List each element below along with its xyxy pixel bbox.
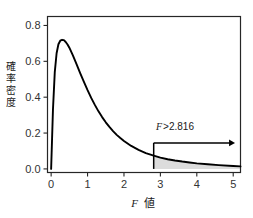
- chart-figure: F>2.816 F値 確率密度 0.00.20.40.60.8 012345: [0, 0, 253, 218]
- y-tick-label: 0.2: [25, 127, 40, 139]
- x-tick-label: 5: [230, 178, 236, 190]
- y-tick-label: 0.0: [25, 163, 40, 175]
- y-axis-title-char: 密: [6, 84, 16, 96]
- x-tick-label: 0: [48, 178, 54, 190]
- annotation-italic-f: F: [155, 121, 163, 132]
- y-tick-label: 0.6: [25, 55, 40, 67]
- critical-value-annotation: F>2.816: [155, 121, 194, 132]
- y-axis-title-char: 度: [6, 96, 16, 108]
- f-distribution-chart: F>2.816 F値 確率密度 0.00.20.40.60.8 012345: [0, 0, 253, 218]
- annotation-value-text: >2.816: [163, 121, 194, 132]
- y-tick-label: 0.4: [25, 91, 40, 103]
- y-axis-title-char: 率: [6, 72, 16, 84]
- x-axis-title-italic: F: [130, 197, 138, 209]
- y-tick-label: 0.8: [25, 19, 40, 31]
- x-axis-title-suffix: 値: [144, 197, 155, 209]
- x-tick-label: 3: [157, 178, 163, 190]
- x-tick-label: 4: [194, 178, 200, 190]
- x-tick-label: 1: [84, 178, 90, 190]
- x-tick-label: 2: [121, 178, 127, 190]
- y-axis-title-char: 確: [6, 60, 16, 72]
